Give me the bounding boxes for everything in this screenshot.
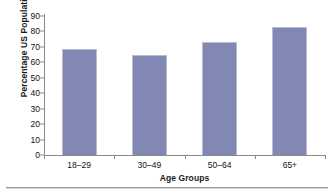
footer-divider-shadow [6,188,328,189]
x-tick-label: 18–29 [67,160,91,170]
y-tick-mark [40,124,44,125]
x-tick-mark [44,155,45,159]
y-axis-tick-labels: 9080706050403020100 [18,0,40,196]
x-tick-label: 65+ [283,160,297,170]
y-tick-mark [40,46,44,47]
x-tick-label: 30–49 [138,160,162,170]
y-tick-mark [40,93,44,94]
y-tick-mark [40,108,44,109]
y-tick-mark [40,62,44,63]
y-tick-label: 0 [18,151,40,160]
y-tick-label: 70 [18,43,40,52]
y-tick-mark [40,31,44,32]
bar [62,49,97,155]
bar [202,42,237,155]
y-tick-mark [40,77,44,78]
y-tick-mark [40,139,44,140]
y-tick-label: 30 [18,104,40,113]
y-tick-label: 50 [18,74,40,83]
y-tick-label: 80 [18,27,40,36]
y-tick-label: 90 [18,12,40,21]
plot-area [44,16,325,155]
x-tick-mark [325,155,326,159]
bar [272,27,307,155]
y-tick-label: 20 [18,120,40,129]
x-axis-title: Age Groups [44,173,325,183]
y-tick-label: 60 [18,58,40,67]
y-tick-label: 40 [18,89,40,98]
y-tick-mark [40,16,44,17]
x-tick-mark [185,155,186,159]
x-tick-mark [114,155,115,159]
x-tick-mark [255,155,256,159]
bar-chart-figure: Percentage US Population 908070605040302… [0,0,333,196]
y-axis-line [44,14,45,156]
bar [132,55,167,155]
x-tick-label: 50–64 [208,160,232,170]
y-tick-label: 10 [18,135,40,144]
